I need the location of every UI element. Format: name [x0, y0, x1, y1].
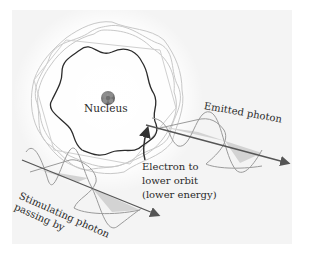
electron-transition-label: Electron to lower orbit (lower energy): [142, 160, 217, 202]
nucleus-label: Nucleus: [84, 103, 128, 114]
